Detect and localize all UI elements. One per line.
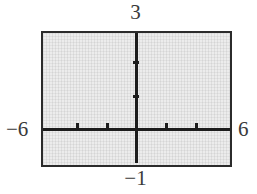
y-axis-tick-1 — [133, 95, 139, 98]
y-axis-tick-2 — [133, 61, 139, 64]
x-axis-tick-minus-4 — [76, 123, 79, 128]
x-axis-tick-minus-2 — [106, 123, 109, 128]
x-max-label: 6 — [238, 119, 249, 140]
x-min-label: −6 — [6, 119, 28, 140]
plot-frame — [41, 31, 232, 167]
x-axis-tick-2 — [165, 123, 168, 128]
graph-figure: 3 −1 −6 6 — [0, 0, 257, 194]
y-max-label: 3 — [0, 2, 257, 23]
x-axis-tick-4 — [195, 123, 198, 128]
y-axis-line — [135, 33, 138, 163]
y-min-label: −1 — [0, 168, 257, 189]
